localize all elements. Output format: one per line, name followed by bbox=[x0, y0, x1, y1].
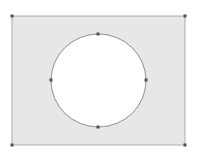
rect-corner-handle-top-right[interactable] bbox=[184, 15, 187, 18]
circle-point-handle-bottom[interactable] bbox=[97, 126, 100, 129]
rect-corner-handle-bottom-left[interactable] bbox=[11, 144, 14, 147]
rect-corner-handle-top-left[interactable] bbox=[11, 15, 14, 18]
rect-corner-handle-bottom-right[interactable] bbox=[184, 144, 187, 147]
diagram-canvas bbox=[0, 0, 197, 153]
circle-point-handle-left[interactable] bbox=[50, 79, 53, 82]
circle-point-handle-right[interactable] bbox=[145, 79, 148, 82]
circle-point-handle-top[interactable] bbox=[97, 33, 100, 36]
circular-hole-outline[interactable] bbox=[51, 34, 146, 127]
